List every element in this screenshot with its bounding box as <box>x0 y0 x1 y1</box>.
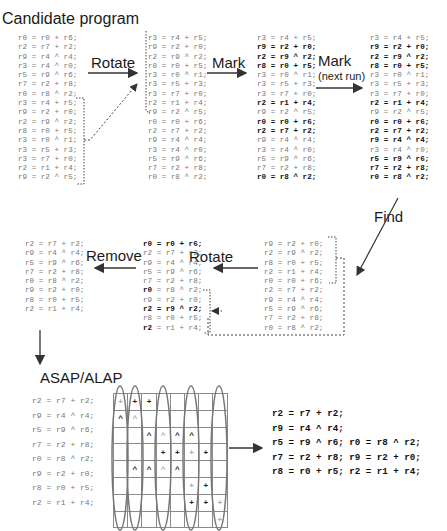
column-ellipses <box>112 386 227 530</box>
flow-arrows <box>0 0 447 531</box>
arrow-find <box>357 198 398 275</box>
